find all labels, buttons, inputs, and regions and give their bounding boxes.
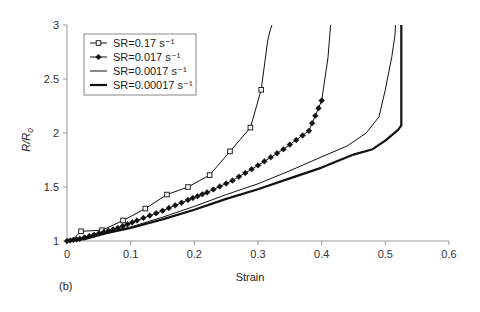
diamond-marker	[316, 105, 322, 111]
diamond-marker	[153, 210, 159, 216]
diamond-marker	[160, 208, 166, 214]
diamond-marker	[262, 159, 268, 165]
square-marker	[79, 229, 84, 234]
diamond-marker	[172, 203, 178, 209]
diamond-marker	[166, 205, 172, 211]
diamond-marker	[141, 215, 147, 221]
legend-label: SR=0.0017 s⁻¹	[113, 65, 187, 77]
chart: 00.10.20.30.40.50.611.522.53 SR=0.17 s⁻¹…	[0, 0, 480, 312]
y-tick-label: 1.5	[44, 181, 59, 193]
diamond-marker	[236, 174, 242, 180]
diamond-marker	[147, 213, 153, 219]
x-tick-label: 0.3	[250, 248, 265, 260]
legend-label: SR=0.00017 s⁻¹	[113, 79, 193, 91]
legend-label: SR=0.017 s⁻¹	[113, 51, 181, 63]
square-marker	[186, 185, 191, 190]
square-marker	[165, 192, 170, 197]
square-marker	[143, 206, 148, 211]
y-tick-label: 1	[53, 235, 59, 247]
x-tick-label: 0.6	[441, 248, 456, 260]
legend-label: SR=0.17 s⁻¹	[113, 37, 175, 49]
x-tick-label: 0.2	[187, 248, 202, 260]
diamond-marker	[274, 150, 280, 156]
square-marker	[248, 125, 253, 130]
diamond-marker	[268, 155, 274, 161]
x-tick-label: 0.5	[378, 248, 393, 260]
y-axis-label: R/R0	[20, 128, 35, 152]
y-tick-label: 3	[53, 19, 59, 31]
panel-label: (b)	[59, 280, 72, 292]
square-marker	[259, 88, 264, 93]
y-tick-label: 2	[53, 127, 59, 139]
diamond-marker	[309, 120, 315, 126]
x-tick-label: 0.4	[314, 248, 329, 260]
diamond-marker	[179, 200, 185, 206]
diamond-marker	[255, 163, 261, 169]
x-tick-label: 0	[64, 248, 70, 260]
diamond-marker	[211, 187, 217, 193]
legend: SR=0.17 s⁻¹SR=0.017 s⁻¹SR=0.0017 s⁻¹SR=0…	[84, 34, 196, 95]
square-marker	[228, 149, 233, 154]
square-marker	[207, 173, 212, 178]
diamond-marker	[313, 113, 319, 119]
diamond-marker	[319, 98, 325, 104]
diamond-marker	[242, 170, 248, 176]
square-marker	[96, 41, 101, 46]
plot-area: 00.10.20.30.40.50.611.522.53 SR=0.17 s⁻¹…	[44, 19, 457, 260]
diamond-marker	[230, 178, 236, 184]
square-marker	[121, 218, 126, 223]
diamond-marker	[249, 166, 255, 172]
diamond-marker	[223, 181, 229, 187]
x-tick-label: 0.1	[123, 248, 138, 260]
diamond-marker	[217, 184, 223, 190]
y-tick-label: 2.5	[44, 73, 59, 85]
x-axis-label: Strain	[236, 271, 265, 283]
